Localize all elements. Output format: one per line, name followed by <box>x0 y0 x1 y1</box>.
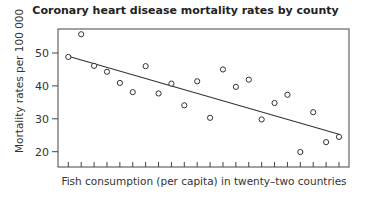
y-tick-label: 50 <box>35 47 49 60</box>
x-axis-label: Fish consumption (per capita) in twenty–… <box>58 175 350 187</box>
data-point <box>117 80 122 85</box>
data-point <box>143 64 148 69</box>
data-point <box>66 54 71 59</box>
data-point <box>259 117 264 122</box>
data-point <box>298 149 303 154</box>
scatter-plot: 20304050 <box>0 0 371 199</box>
data-point <box>104 69 109 74</box>
x-axis <box>68 162 339 167</box>
y-axis-label: Mortality rates per 100 000 <box>13 43 25 153</box>
data-point <box>130 90 135 95</box>
data-point <box>207 115 212 120</box>
data-point <box>79 32 84 37</box>
trend-line <box>68 56 339 134</box>
data-point <box>156 91 161 96</box>
data-point <box>182 103 187 108</box>
data-point <box>233 84 238 89</box>
data-point <box>311 110 316 115</box>
data-point <box>246 77 251 82</box>
data-point <box>272 100 277 105</box>
y-tick-label: 20 <box>35 146 49 159</box>
data-point <box>195 79 200 84</box>
data-point <box>220 67 225 72</box>
data-point <box>169 81 174 86</box>
data-point <box>336 134 341 139</box>
data-point <box>285 92 290 97</box>
data-point <box>91 63 96 68</box>
y-tick-label: 40 <box>35 80 49 93</box>
y-axis: 20304050 <box>35 47 58 159</box>
data-points <box>66 32 342 155</box>
y-tick-label: 30 <box>35 113 49 126</box>
data-point <box>324 140 329 145</box>
plot-frame <box>58 29 349 167</box>
